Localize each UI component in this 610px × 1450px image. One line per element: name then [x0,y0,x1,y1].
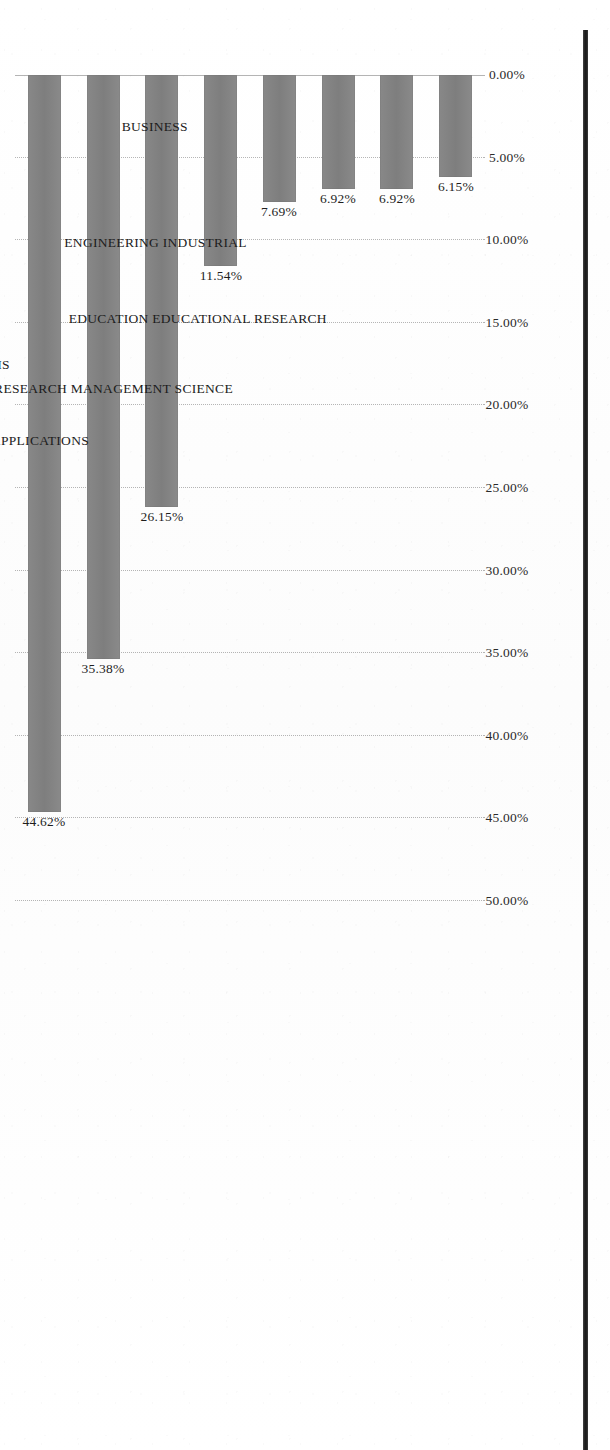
bar [145,75,178,507]
bar-value-label: 35.38% [82,661,125,677]
bar-value-label: 6.92% [320,191,356,207]
gridline [15,735,485,736]
value-axis-baseline [15,75,485,76]
bar-value-label: 7.69% [261,204,297,220]
axis-tick-label: 40.00% [486,728,529,744]
axis-tick-label: 50.00% [486,893,529,909]
bar-value-label: 26.15% [140,509,183,525]
axis-tick-label: 30.00% [486,563,529,579]
gridline [15,487,485,488]
axis-tick-label: 35.00% [486,645,529,661]
gridline [15,570,485,571]
bar [263,75,296,202]
category-label: EDUCATION EDUCATIONAL RESEARCH [68,311,326,327]
bar [380,75,413,189]
gridline [15,404,485,405]
category-label: ENGINEERING INDUSTRIAL [64,235,246,251]
axis-tick-label: 25.00% [486,480,529,496]
bar [439,75,472,177]
category-label: COMPUTER SCIENCE INFORMATION SYSTEMS [0,357,10,373]
axis-tick-label: 5.00% [489,150,525,166]
chart-rotation-wrapper: 6.15%6.92%6.92%7.69%11.54%26.15%35.38%44… [0,0,610,1450]
gridline [15,652,485,653]
bar [87,75,120,659]
bar-value-label: 6.15% [438,179,474,195]
gridline [15,817,485,818]
axis-tick-label: 45.00% [486,810,529,826]
category-label: BUSINESS [121,119,187,135]
axis-tick-label: 15.00% [486,315,529,331]
bar-value-label: 44.62% [23,814,66,830]
axis-tick-label: 20.00% [486,397,529,413]
bar-chart: 6.15%6.92%6.92%7.69%11.54%26.15%35.38%44… [25,75,585,1375]
axis-tick-label: 0.00% [489,67,525,83]
scanned-chart-page: 6.15%6.92%6.92%7.69%11.54%26.15%35.38%44… [0,0,610,1450]
category-label: COMPUTER SCIENCE INTERDISCIPLINARY APPLI… [0,433,89,449]
gridline [15,900,485,901]
bar-value-label: 11.54% [199,268,241,284]
gridline [15,157,485,158]
axis-tick-label: 10.00% [486,232,529,248]
plot-area: 6.15%6.92%6.92%7.69%11.54%26.15%35.38%44… [15,75,485,901]
bar-value-label: 6.92% [379,191,415,207]
bar [322,75,355,189]
category-label: OPERATIONS RESEARCH MANAGEMENT SCIENCE [0,381,233,397]
